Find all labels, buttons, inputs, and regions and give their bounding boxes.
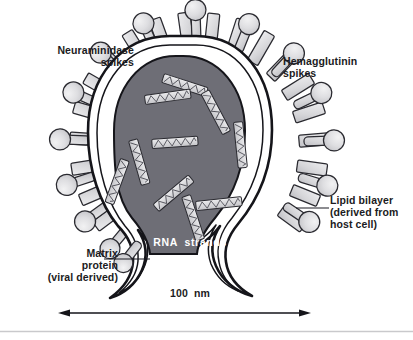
label-neuraminidase-spikes: Neuraminidase spikes [14,44,134,68]
arrowhead-right [299,309,311,316]
scale-bar [58,309,311,316]
label-scale-value: 100 nm [150,287,230,299]
label-rna-strands: RNA strands [135,236,245,248]
label-lipid-bilayer: Lipid bilayer (derived from host cell) [330,194,410,230]
label-matrix-protein: Matrix protein (viral derived) [18,247,118,283]
label-hemagglutinin-spikes: Hemagglutinin spikes [283,55,407,79]
virus-structure-figure: Neuraminidase spikes Hemagglutinin spike… [0,0,413,340]
arrowhead-left [58,309,70,316]
